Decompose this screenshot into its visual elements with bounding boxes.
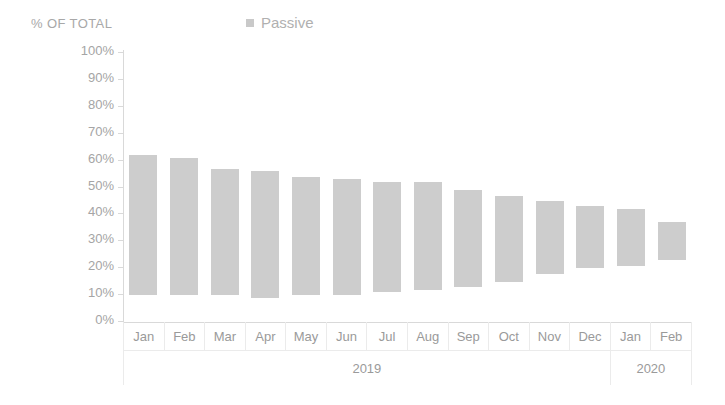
legend-swatch-icon — [246, 19, 254, 27]
year-label-row: 20192020 — [124, 351, 692, 386]
month-label-cell: Jul — [367, 322, 408, 351]
bar[interactable] — [576, 206, 604, 268]
month-label-cell: Aug — [407, 322, 448, 351]
month-label-cell: Jun — [326, 322, 367, 351]
y-axis-tick-label: 90% — [88, 71, 114, 84]
plot-area: 100%90%80%70%60%50%40%30%20%10%0% — [123, 53, 692, 322]
month-label-cell: Oct — [489, 322, 530, 351]
y-axis-tick-label: 30% — [88, 232, 114, 245]
month-label-cell: Sep — [448, 322, 489, 351]
month-label-cell: May — [286, 322, 327, 351]
bar[interactable] — [129, 155, 157, 295]
month-label-cell: Feb — [164, 322, 205, 351]
chart-legend: Passive — [246, 14, 314, 31]
month-label-cell: Apr — [245, 322, 286, 351]
y-axis-tick-label: 80% — [88, 98, 114, 111]
chart-container: % OF TOTAL Passive 100%90%80%70%60%50%40… — [0, 0, 725, 405]
y-axis-tick-label: 40% — [88, 205, 114, 218]
bar[interactable] — [333, 179, 361, 295]
month-label-row: JanFebMarAprMayJunJulAugSepOctNovDecJanF… — [124, 322, 692, 351]
y-axis-tick-label: 0% — [95, 313, 114, 326]
bar[interactable] — [292, 177, 320, 295]
month-label-cell: Jan — [610, 322, 651, 351]
y-axis-tick-label: 70% — [88, 125, 114, 138]
y-axis-title: % OF TOTAL — [31, 16, 112, 31]
bar[interactable] — [211, 169, 239, 295]
y-axis-tick-label: 100% — [81, 44, 114, 57]
bar[interactable] — [658, 222, 686, 260]
bar[interactable] — [495, 196, 523, 282]
month-label-cell: Nov — [529, 322, 570, 351]
bar[interactable] — [170, 158, 198, 295]
legend-item-label: Passive — [261, 14, 314, 31]
month-label-cell: Mar — [205, 322, 246, 351]
y-axis-tick-label: 60% — [88, 152, 114, 165]
bars-layer — [123, 53, 692, 322]
bar[interactable] — [536, 201, 564, 274]
bar[interactable] — [251, 171, 279, 297]
y-axis-tick-label: 50% — [88, 179, 114, 192]
year-label-cell: 2019 — [124, 351, 611, 386]
bar[interactable] — [617, 209, 645, 265]
y-axis-tick-label: 10% — [88, 286, 114, 299]
year-label-cell: 2020 — [610, 351, 691, 386]
month-label-cell: Jan — [124, 322, 165, 351]
month-label-cell: Dec — [570, 322, 611, 351]
bar[interactable] — [454, 190, 482, 287]
bar[interactable] — [373, 182, 401, 292]
y-axis-tick-label: 20% — [88, 259, 114, 272]
month-label-cell: Feb — [651, 322, 692, 351]
bar[interactable] — [414, 182, 442, 290]
category-axis-table: JanFebMarAprMayJunJulAugSepOctNovDecJanF… — [123, 322, 692, 385]
